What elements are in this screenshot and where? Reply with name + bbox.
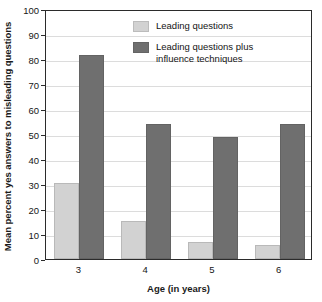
legend-label: Leading questions: [156, 20, 233, 32]
y-axis-tick-label: 20: [28, 205, 39, 216]
x-axis-tick-label: 6: [276, 264, 281, 275]
chart-legend: Leading questionsLeading questions plus …: [133, 20, 308, 73]
y-axis-tick-label: 10: [28, 230, 39, 241]
bar-group: [54, 11, 104, 259]
y-axis-tick-label: 0: [34, 255, 39, 266]
bar: [280, 124, 305, 259]
bar: [79, 55, 104, 259]
y-axis-tick-label: 90: [28, 30, 39, 41]
bar: [54, 183, 79, 259]
legend-label: Leading questions plus influence techniq…: [156, 41, 253, 64]
y-axis-title-text: Mean percent yes answers to misleading q…: [3, 21, 14, 250]
y-axis-title: Mean percent yes answers to misleading q…: [0, 0, 16, 272]
y-axis-tick-mark: [41, 260, 45, 261]
legend-entry: Leading questions plus influence techniq…: [133, 41, 308, 64]
bar: [121, 221, 146, 259]
bar: [188, 242, 213, 260]
y-axis-tick-label: 50: [28, 130, 39, 141]
y-axis-tick-label: 100: [23, 5, 39, 16]
x-axis-tick-label: 4: [142, 264, 147, 275]
y-axis-tick-label: 70: [28, 80, 39, 91]
y-axis-tick-label: 40: [28, 155, 39, 166]
y-axis-tick-label: 80: [28, 55, 39, 66]
bar: [255, 245, 280, 259]
bar-chart: Mean percent yes answers to misleading q…: [0, 0, 322, 302]
y-axis-tick-labels: 0102030405060708090100: [16, 10, 42, 260]
legend-swatch-icon: [133, 21, 149, 32]
legend-entry: Leading questions: [133, 20, 308, 32]
bar: [213, 137, 238, 259]
y-axis-tick-label: 30: [28, 180, 39, 191]
x-axis-title: Age (in years): [45, 283, 312, 294]
x-axis-tick-label: 5: [209, 264, 214, 275]
x-axis-tick-label: 3: [76, 264, 81, 275]
x-axis-tick-labels: 3456: [45, 264, 312, 278]
bar: [146, 124, 171, 260]
y-axis-tick-label: 60: [28, 105, 39, 116]
legend-swatch-icon: [133, 42, 149, 53]
